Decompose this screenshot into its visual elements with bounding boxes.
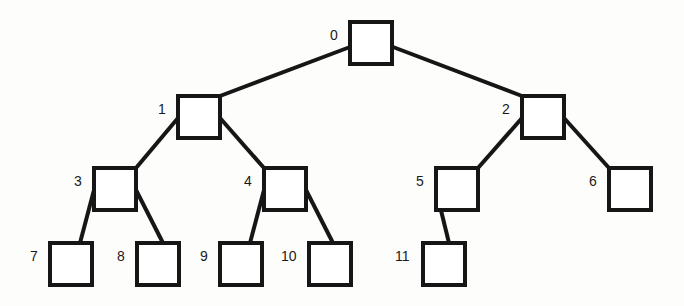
tree-node-box-6[interactable] (607, 166, 653, 212)
tree-node-box-5[interactable] (434, 166, 480, 212)
tree-node-label-10: 10 (281, 249, 297, 263)
tree-node-box-9[interactable] (218, 241, 264, 287)
tree-node-label-4: 4 (244, 174, 252, 188)
tree-node-box-11[interactable] (421, 241, 467, 287)
tree-node-layer: 01234567891011 (0, 0, 684, 306)
tree-node-box-3[interactable] (92, 166, 138, 212)
tree-node-label-8: 8 (117, 249, 125, 263)
tree-node-box-1[interactable] (176, 94, 222, 140)
tree-node-box-0[interactable] (348, 20, 394, 66)
tree-node-label-11: 11 (395, 249, 410, 263)
tree-node-box-4[interactable] (262, 166, 308, 212)
tree-node-label-5: 5 (416, 174, 424, 188)
tree-node-label-2: 2 (502, 102, 510, 116)
tree-node-box-8[interactable] (135, 241, 181, 287)
tree-node-box-10[interactable] (307, 241, 353, 287)
tree-node-label-6: 6 (589, 174, 597, 188)
tree-node-label-0: 0 (330, 28, 338, 42)
tree-node-label-7: 7 (30, 249, 38, 263)
tree-node-label-9: 9 (200, 249, 208, 263)
tree-node-box-7[interactable] (48, 241, 94, 287)
tree-node-label-1: 1 (158, 102, 166, 116)
tree-node-label-3: 3 (74, 174, 82, 188)
tree-node-box-2[interactable] (520, 94, 566, 140)
tree-diagram: 01234567891011 (0, 0, 684, 306)
